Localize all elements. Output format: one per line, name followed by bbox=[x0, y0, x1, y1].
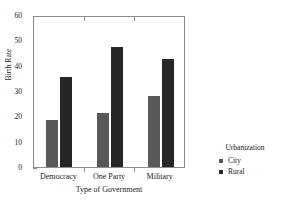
x-tick-label: Democracy bbox=[40, 172, 77, 182]
legend-entries: CityRural bbox=[205, 156, 283, 177]
plot-area bbox=[33, 16, 185, 168]
bar-city-one-party bbox=[97, 113, 109, 167]
x-tick-mark-top bbox=[134, 17, 135, 21]
y-tick-label: 50 bbox=[0, 37, 22, 45]
y-tick-label: 60 bbox=[0, 12, 22, 20]
x-tick-label: Military bbox=[147, 172, 173, 182]
bar-city-military bbox=[148, 96, 160, 167]
bar-rural-democracy bbox=[60, 77, 72, 167]
legend: Urbanization CityRural bbox=[205, 143, 283, 177]
x-tick-mark-top bbox=[84, 17, 85, 21]
legend-item: Rural bbox=[205, 167, 283, 177]
y-tick-label: 0 bbox=[0, 164, 22, 172]
x-axis-title: Type of Government bbox=[33, 185, 185, 194]
bar-rural-one-party bbox=[111, 47, 123, 167]
legend-label: Rural bbox=[228, 167, 245, 177]
x-tick-label: One Party bbox=[93, 172, 125, 182]
x-tick-mark bbox=[84, 168, 85, 172]
legend-swatch-icon bbox=[219, 159, 223, 163]
bar-city-democracy bbox=[46, 120, 58, 167]
x-tick-mark bbox=[134, 168, 135, 172]
legend-swatch-icon bbox=[219, 170, 223, 174]
y-tick-mark bbox=[33, 168, 37, 169]
bar-rural-military bbox=[162, 59, 174, 167]
legend-label: City bbox=[228, 156, 241, 166]
bar-chart-figure: Birth Rate 0102030405060 DemocracyOne Pa… bbox=[0, 0, 285, 208]
y-tick-label: 20 bbox=[0, 113, 22, 121]
legend-title: Urbanization bbox=[205, 143, 283, 153]
y-tick-label: 30 bbox=[0, 88, 22, 96]
legend-item: City bbox=[205, 156, 283, 166]
y-tick-label: 40 bbox=[0, 63, 22, 71]
y-tick-label: 10 bbox=[0, 139, 22, 147]
